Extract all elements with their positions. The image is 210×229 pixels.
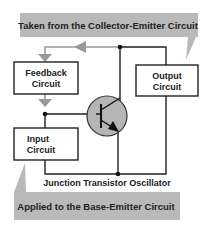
bottom-banner-text: Applied to the Base-Emitter Circuit: [17, 201, 175, 212]
svg-text:Feedback: Feedback: [25, 68, 68, 78]
arrow-left-icon: [74, 41, 86, 53]
input-circuit-box: Input Circuit: [14, 128, 78, 160]
arrow-down-icon: [38, 99, 52, 107]
output-circuit-box: Output Circuit: [136, 65, 198, 96]
svg-text:Input: Input: [27, 134, 49, 144]
bottom-banner: Applied to the Base-Emitter Circuit: [14, 163, 180, 220]
svg-text:Output: Output: [152, 71, 182, 81]
junction-dot: [118, 45, 123, 50]
top-banner-text: Taken from the Collector-Emitter Circuit: [18, 20, 199, 31]
svg-text:Circuit: Circuit: [153, 82, 182, 92]
junction-dot: [43, 112, 48, 117]
oscillator-diagram: Taken from the Collector-Emitter Circuit…: [0, 0, 210, 229]
arrow-down-icon: [38, 54, 52, 62]
transistor-icon: [87, 96, 127, 136]
junction-dot: [116, 172, 121, 177]
svg-text:Circuit: Circuit: [27, 145, 56, 155]
feedback-circuit-box: Feedback Circuit: [14, 62, 78, 94]
diagram-title: Junction Transistor Oscillator: [43, 178, 171, 188]
svg-text:Circuit: Circuit: [32, 79, 61, 89]
